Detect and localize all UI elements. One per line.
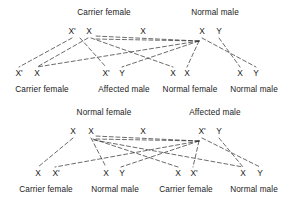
allele-o1-4-a: X [237,69,243,77]
offspring-title-2-4: Normal male [230,186,278,194]
allele-o2-1-a: X [35,169,41,177]
offspring-title-1-2: Affected male [98,86,149,94]
offspring-title-1-4: Normal male [230,86,278,94]
middle-marker-cross-2: X [140,127,146,135]
allele-p1-right-1: X [199,27,205,35]
parent-title-normal-female: Normal female [77,109,132,117]
allele-o2-3-b: X' [190,169,197,177]
edge-p2-x-to-o1b [37,41,199,67]
edge-p4-y-to-o2b [121,141,199,167]
edge-p4-x-to-o4 [219,138,243,167]
offspring-title-1-1: Carrier female [15,86,69,94]
offspring-title-2-1: Carrier female [19,186,73,194]
edge-p3-x-to-o4 [94,140,243,167]
edge-p2-y-to-o4 [219,38,240,67]
allele-o2-2-a: X [103,169,109,177]
allele-p2-right-1: X' [198,127,205,135]
allele-o1-2-a: X' [102,69,109,77]
edge-p1-x-to-o1b [37,38,88,67]
edge-p3-x-to-o1 [38,138,73,167]
edge-p2-y-to-o2b [122,41,199,67]
edge-p4-xprime-to-o3b [193,141,199,167]
allele-o2-4-b: Y [257,169,263,177]
allele-o1-4-b: Y [253,69,259,77]
edge-p3-x-to-o2 [91,138,106,167]
allele-p2-right-2: Y [216,127,222,135]
edge-apex-3 [95,136,199,141]
edge-p1-xprime-to-o2 [80,38,106,67]
allele-o1-3-a: X [170,69,176,77]
edge-p4-xprime-to-o1b [55,141,199,167]
edge-p4-y-to-o4b [202,138,260,167]
parent-title-carrier-female: Carrier female [77,9,131,17]
allele-p2-left-1: X [70,127,76,135]
allele-o1-2-b: Y [119,69,125,77]
edge-p2-y-to-o4b [202,38,256,67]
edge-p1-xprime-to-o1 [19,38,72,67]
allele-p2-left-2: X [88,127,94,135]
allele-o2-4-a: X [240,169,246,177]
allele-o1-3-b: X [184,69,190,77]
parent-title-affected-male: Affected male [189,109,240,117]
offspring-title-2-2: Normal male [91,186,139,194]
offspring-title-1-3: Normal female [163,86,218,94]
allele-o2-1-b: X' [52,169,59,177]
edge-p1-x-to-o3 [91,38,173,67]
cross-diagram-1: Carrier female Normal male X' X X Y X X'… [0,0,289,100]
edge-p2-x-to-o3b [187,41,199,67]
inheritance-figure: Carrier female Normal male X' X X Y X X'… [0,0,289,200]
allele-p1-right-2: Y [216,27,222,35]
allele-p1-left-1: X' [68,27,75,35]
allele-o2-2-b: Y [119,169,125,177]
middle-marker-cross-1: X [140,27,146,35]
allele-p1-left-2: X [86,27,92,35]
edge-apex-1 [95,36,199,41]
cross-diagram-2: Normal female Affected male X X X' Y X X… [0,100,289,200]
allele-o1-1-a: X' [15,69,22,77]
offspring-title-2-3: Carrier female [159,186,213,194]
allele-o1-1-b: X [34,69,40,77]
allele-o2-3-a: X [175,169,181,177]
parent-title-normal-male: Normal male [191,9,239,17]
